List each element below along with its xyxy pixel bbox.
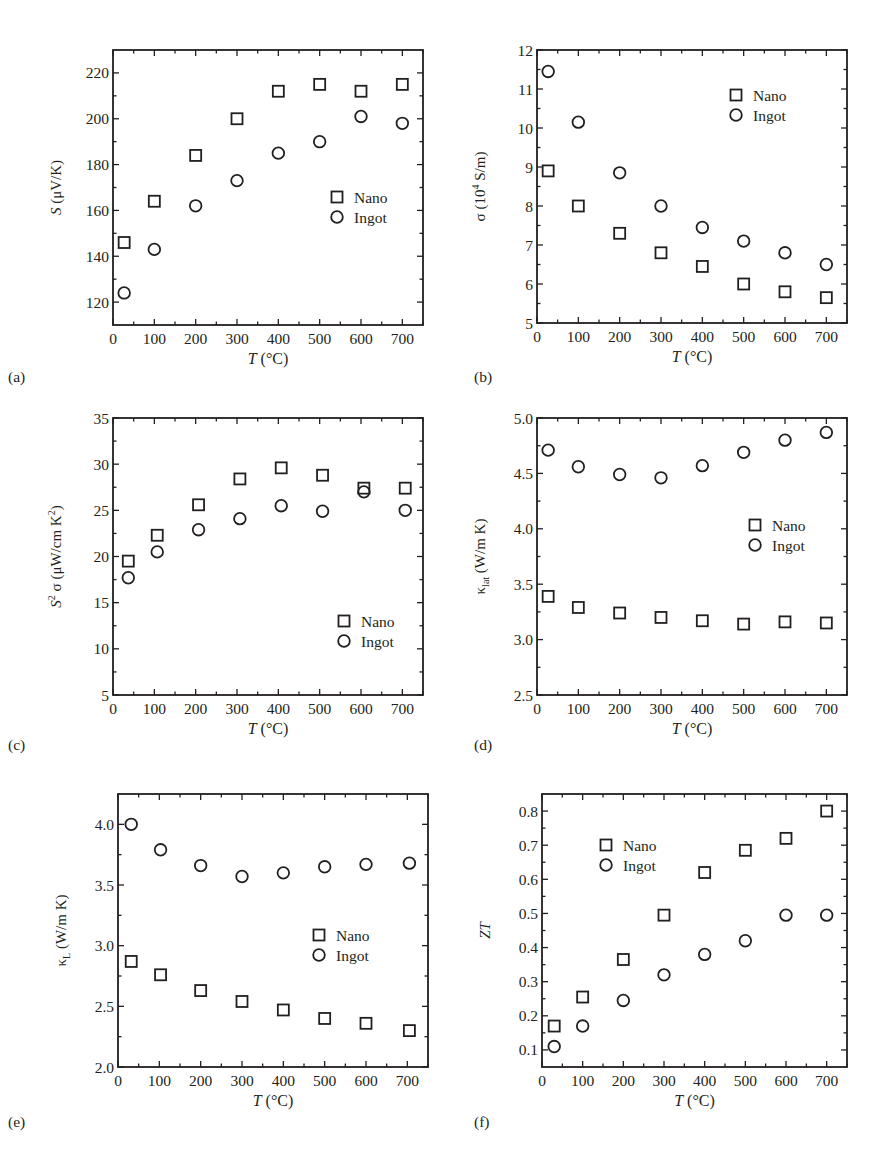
legend: NanoIngot xyxy=(600,837,657,874)
legend-label-nano: Nano xyxy=(361,613,395,630)
x-tick-label: 700 xyxy=(815,1072,839,1089)
y-tick-label: 12 xyxy=(518,42,534,59)
y-tick-label: 140 xyxy=(86,248,110,265)
circle-marker xyxy=(355,111,367,123)
circle-marker xyxy=(780,909,792,921)
legend-label-nano: Nano xyxy=(623,837,657,854)
y-tick-label: 4.0 xyxy=(514,520,534,537)
x-tick-label: 0 xyxy=(538,1072,546,1089)
circle-marker xyxy=(149,244,161,256)
y-tick-label: 0.7 xyxy=(519,837,539,854)
x-tick-label: 600 xyxy=(773,328,797,345)
square-marker xyxy=(314,79,325,90)
series-ingot xyxy=(542,66,832,271)
y-tick-label: 220 xyxy=(86,64,110,81)
y-tick-label: 15 xyxy=(94,594,110,611)
legend-circle-icon xyxy=(331,211,343,223)
square-marker xyxy=(232,113,243,124)
series-ingot xyxy=(548,909,832,1052)
y-tick-label: 200 xyxy=(86,110,110,127)
x-tick-label: 500 xyxy=(308,330,332,347)
x-tick-label: 100 xyxy=(143,330,167,347)
legend: NanoIngot xyxy=(313,927,370,964)
circle-marker xyxy=(548,1041,560,1053)
legend-square-icon xyxy=(339,616,350,627)
panel-label-e: (e) xyxy=(8,1113,25,1131)
legend-label-ingot: Ingot xyxy=(753,107,786,124)
square-marker xyxy=(123,556,134,567)
circle-marker xyxy=(404,857,416,869)
legend-circle-icon xyxy=(338,635,350,647)
circle-marker xyxy=(655,200,667,212)
x-tick-label: 400 xyxy=(691,700,715,717)
circle-marker xyxy=(577,1020,589,1032)
panel-label-c: (c) xyxy=(8,736,25,754)
y-tick-label: 10 xyxy=(518,120,534,137)
circle-marker xyxy=(738,447,750,459)
x-tick-label: 100 xyxy=(567,328,591,345)
x-tick-label: 700 xyxy=(391,700,415,717)
x-tick-label: 0 xyxy=(114,1072,122,1089)
legend-circle-icon xyxy=(600,859,612,871)
plot-frame xyxy=(537,418,847,695)
y-tick-label: 3.0 xyxy=(95,937,115,954)
square-marker xyxy=(237,996,248,1007)
y-tick-label: 2.5 xyxy=(95,998,115,1015)
circle-marker xyxy=(122,572,134,584)
series-ingot xyxy=(122,486,411,583)
plot-frame xyxy=(113,50,423,325)
panel-b: 010020030040050060070056789101112T (°C)σ… xyxy=(470,42,847,387)
y-axis-label: σ (104 S/m) xyxy=(470,152,489,222)
y-tick-label: 2.5 xyxy=(514,687,534,704)
panel-d: 01002003004005006007002.53.03.54.04.55.0… xyxy=(472,410,847,755)
square-marker xyxy=(614,228,625,239)
square-marker xyxy=(573,602,584,613)
legend-circle-icon xyxy=(313,949,325,961)
panel-f: 01002003004005006007000.10.20.30.40.50.6… xyxy=(474,794,847,1131)
legend: NanoIngot xyxy=(749,517,806,554)
y-axis-label: S (μV/K) xyxy=(48,160,65,215)
panel-label-d: (d) xyxy=(474,736,492,754)
circle-marker xyxy=(151,546,163,558)
legend-square-icon xyxy=(750,520,761,531)
circle-marker xyxy=(195,860,207,872)
x-axis-label: T (°C) xyxy=(253,1092,294,1110)
circle-marker xyxy=(319,861,331,873)
legend: NanoIngot xyxy=(331,189,388,226)
y-tick-label: 10 xyxy=(94,640,110,657)
square-marker xyxy=(780,286,791,297)
y-tick-label: 30 xyxy=(94,456,110,473)
x-tick-label: 400 xyxy=(267,700,291,717)
circle-marker xyxy=(273,147,285,159)
plot-frame xyxy=(118,794,428,1067)
x-tick-label: 300 xyxy=(225,330,249,347)
y-axis-label: κL (W/m K) xyxy=(53,895,72,967)
square-marker xyxy=(738,619,749,630)
circle-marker xyxy=(193,524,205,536)
y-tick-label: 0.6 xyxy=(519,871,539,888)
x-tick-label: 500 xyxy=(313,1072,337,1089)
x-tick-label: 300 xyxy=(649,328,673,345)
square-marker xyxy=(319,1013,330,1024)
y-tick-label: 11 xyxy=(518,81,533,98)
square-marker xyxy=(659,910,670,921)
y-tick-label: 0.5 xyxy=(519,905,539,922)
plot-frame xyxy=(537,50,847,323)
x-tick-label: 500 xyxy=(732,700,756,717)
x-tick-label: 0 xyxy=(109,700,117,717)
legend: NanoIngot xyxy=(338,613,395,650)
x-tick-label: 300 xyxy=(652,1072,676,1089)
square-marker xyxy=(656,612,667,623)
square-marker xyxy=(656,247,667,258)
circle-marker xyxy=(399,505,411,517)
square-marker xyxy=(276,462,287,473)
x-axis-label: T (°C) xyxy=(674,1092,715,1110)
circle-marker xyxy=(740,935,752,947)
x-tick-label: 400 xyxy=(693,1072,717,1089)
square-marker xyxy=(577,992,588,1003)
panel-label-f: (f) xyxy=(474,1113,490,1131)
square-marker xyxy=(404,1025,415,1036)
square-marker xyxy=(740,845,751,856)
x-axis-label: T (°C) xyxy=(672,348,713,366)
x-tick-label: 0 xyxy=(533,700,541,717)
